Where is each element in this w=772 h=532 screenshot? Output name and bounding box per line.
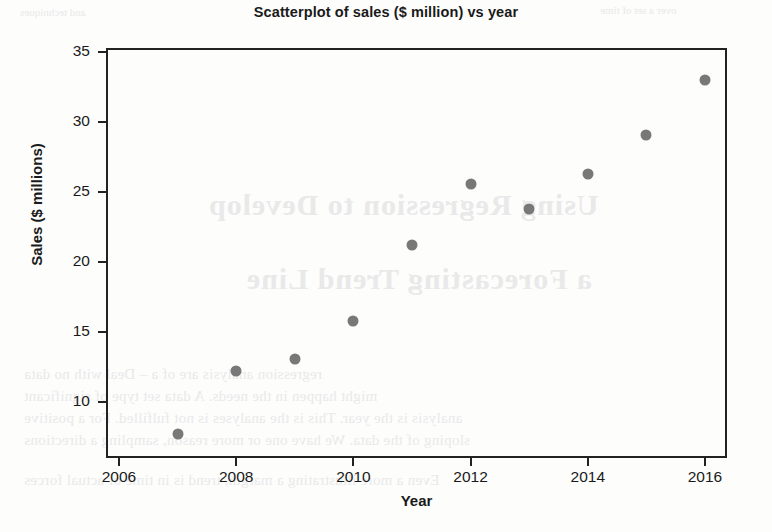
x-axis-tick-label: 2016 bbox=[675, 468, 735, 486]
y-axis-tick-label: 30 bbox=[50, 112, 90, 130]
y-axis-label: Sales ($ millions) bbox=[28, 105, 45, 305]
x-axis-tick bbox=[587, 458, 589, 466]
data-point bbox=[231, 366, 242, 377]
data-point bbox=[407, 240, 418, 251]
x-axis-tick-label: 2014 bbox=[558, 468, 618, 486]
x-axis-tick-label: 2006 bbox=[89, 468, 149, 486]
x-axis-tick bbox=[470, 458, 472, 466]
y-axis-tick-label: 10 bbox=[50, 392, 90, 410]
x-axis-tick bbox=[118, 458, 120, 466]
y-axis-tick bbox=[98, 401, 106, 403]
y-axis-tick bbox=[98, 331, 106, 333]
y-axis-tick bbox=[98, 51, 106, 53]
y-axis-tick-label: 15 bbox=[50, 322, 90, 340]
x-axis-label: Year bbox=[106, 492, 727, 509]
data-point bbox=[172, 429, 183, 440]
data-point bbox=[641, 129, 652, 140]
chart-title: Scatterplot of sales ($ million) vs year bbox=[0, 4, 772, 20]
y-axis-tick bbox=[98, 261, 106, 263]
data-point bbox=[582, 168, 593, 179]
plot-area-frame bbox=[106, 48, 727, 458]
x-axis-tick bbox=[704, 458, 706, 466]
y-axis-tick-label: 25 bbox=[50, 182, 90, 200]
x-axis-tick-label: 2008 bbox=[206, 468, 266, 486]
data-point bbox=[289, 353, 300, 364]
data-point bbox=[348, 315, 359, 326]
scatterplot-figure: Scatterplot of sales ($ million) vs year… bbox=[0, 0, 772, 532]
x-axis-tick-label: 2012 bbox=[441, 468, 501, 486]
x-axis-tick-label: 2010 bbox=[323, 468, 383, 486]
data-point bbox=[524, 203, 535, 214]
data-point bbox=[700, 75, 711, 86]
x-axis-tick bbox=[352, 458, 354, 466]
y-axis-tick-label: 35 bbox=[50, 42, 90, 60]
y-axis-tick bbox=[98, 121, 106, 123]
y-axis-tick-label: 20 bbox=[50, 252, 90, 270]
data-point bbox=[465, 178, 476, 189]
y-axis-tick bbox=[98, 191, 106, 193]
x-axis-tick bbox=[235, 458, 237, 466]
